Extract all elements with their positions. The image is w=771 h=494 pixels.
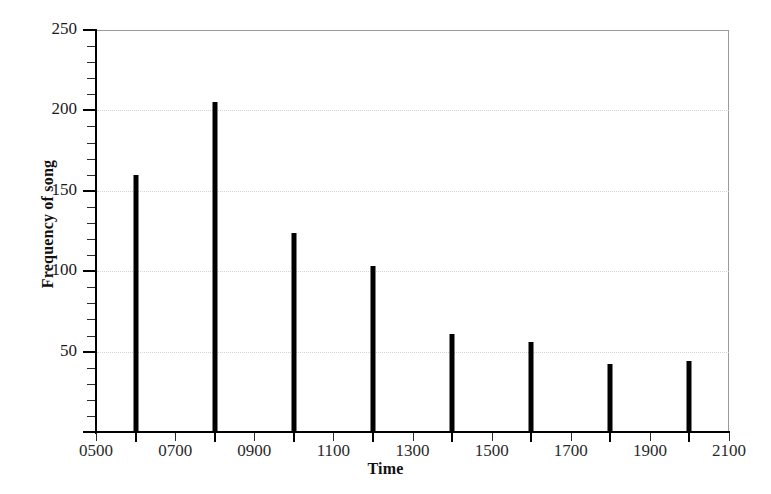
y-axis-title: Frequency of song — [39, 124, 57, 324]
y-tick-200 — [83, 109, 95, 111]
x-axis-title: Time — [0, 460, 771, 478]
bar-0800 — [212, 102, 217, 432]
y-tick-label-250: 250 — [52, 19, 78, 39]
y-tick-180 — [87, 143, 95, 144]
y-tick-240 — [87, 46, 95, 47]
y-tick-100 — [83, 270, 95, 272]
x-tick-1700 — [571, 433, 572, 441]
gridline-y-150 — [97, 191, 729, 193]
y-tick-10 — [87, 416, 95, 417]
x-tick-700 — [175, 433, 176, 441]
gridline-y-100 — [97, 271, 729, 273]
y-tick-150 — [83, 190, 95, 192]
y-tick-130 — [87, 223, 95, 224]
gridline-y-50 — [97, 352, 729, 354]
x-tick-major-600 — [135, 433, 137, 442]
x-tick-label-2100: 2100 — [712, 441, 746, 461]
y-tick-20 — [87, 400, 95, 401]
y-tick-60 — [87, 336, 95, 337]
y-tick-160 — [87, 175, 95, 176]
y-tick-170 — [87, 159, 95, 160]
x-tick-1100 — [333, 433, 334, 441]
x-tick-major-1600 — [530, 433, 532, 442]
x-tick-label-1500: 1500 — [475, 441, 509, 461]
y-tick-250 — [83, 29, 95, 31]
y-tick-230 — [87, 62, 95, 63]
y-tick-190 — [87, 126, 95, 127]
y-tick-210 — [87, 94, 95, 95]
y-tick-50 — [83, 351, 95, 353]
y-tick-120 — [87, 239, 95, 240]
y-tick-80 — [87, 303, 95, 304]
bar-1800 — [608, 364, 613, 432]
x-tick-1500 — [492, 433, 493, 441]
bar-0600 — [133, 175, 138, 432]
x-tick-major-800 — [214, 433, 216, 442]
x-tick-major-1000 — [293, 433, 295, 442]
x-tick-2100 — [729, 433, 730, 441]
y-tick-110 — [87, 255, 95, 256]
y-tick-70 — [87, 319, 95, 320]
bar-2000 — [687, 361, 692, 432]
bar-1000 — [291, 233, 296, 432]
x-tick-major-1800 — [609, 433, 611, 442]
x-tick-900 — [254, 433, 255, 441]
y-tick-140 — [87, 207, 95, 208]
y-tick-30 — [87, 384, 95, 385]
x-tick-1300 — [413, 433, 414, 441]
y-tick-40 — [87, 368, 95, 369]
x-tick-label-1700: 1700 — [554, 441, 588, 461]
y-axis-spine — [95, 29, 97, 434]
x-tick-label-1300: 1300 — [396, 441, 430, 461]
x-tick-500 — [96, 433, 97, 441]
x-tick-label-1900: 1900 — [633, 441, 667, 461]
x-tick-1900 — [650, 433, 651, 441]
x-tick-label-1100: 1100 — [317, 441, 350, 461]
y-tick-0 — [83, 431, 95, 433]
y-tick-220 — [87, 78, 95, 79]
chart-figure: 50100150200250 0500070009001100130015001… — [0, 0, 771, 494]
x-tick-label-0700: 0700 — [158, 441, 192, 461]
y-tick-label-50: 50 — [60, 341, 77, 361]
x-tick-label-0900: 0900 — [237, 441, 271, 461]
gridline-y-200 — [97, 110, 729, 112]
bar-1400 — [450, 334, 455, 432]
x-tick-major-2000 — [688, 433, 690, 442]
bar-1600 — [529, 342, 534, 432]
x-tick-label-0500: 0500 — [79, 441, 113, 461]
y-tick-label-200: 200 — [52, 99, 78, 119]
plot-area — [96, 30, 729, 432]
bar-1200 — [370, 266, 375, 432]
x-tick-major-1400 — [451, 433, 453, 442]
x-tick-major-1200 — [372, 433, 374, 442]
y-tick-90 — [87, 287, 95, 288]
